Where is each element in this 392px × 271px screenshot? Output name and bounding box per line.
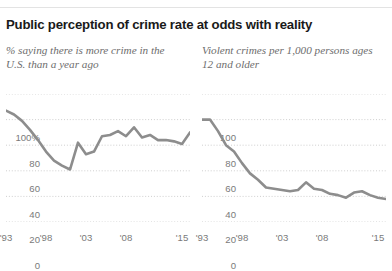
chart-subtitle-violent-crime: Violent crimes per 1,000 persons ages 12…: [202, 44, 378, 71]
y-axis-tick-label: 0: [198, 260, 236, 271]
x-axis-perception: '93'98'03'08'15: [0, 232, 196, 252]
x-axis-labels-row: '93'98'03'08'15 '93'98'03'08'15: [0, 232, 392, 248]
plot-area-perception: [6, 94, 190, 222]
y-axis-tick-label: 0: [2, 260, 40, 271]
x-axis-violent-crime: '93'98'03'08'15: [196, 232, 392, 252]
x-axis-tick-label: '98: [40, 232, 53, 243]
gridlines-perception: [6, 94, 190, 222]
page-title: Public perception of crime rate at odds …: [6, 17, 312, 32]
line-chart-violent-crime: [202, 94, 386, 222]
line-chart-perception: [6, 94, 190, 222]
x-axis-tick-label: '15: [176, 232, 189, 243]
x-axis-tick-label: '08: [316, 232, 329, 243]
x-axis-tick-label: '93: [0, 232, 12, 243]
x-axis-tick-label: '93: [196, 232, 209, 243]
plot-area-violent-crime: [202, 94, 386, 222]
x-axis-tick-label: '03: [276, 232, 289, 243]
x-axis-tick-label: '03: [80, 232, 93, 243]
data-line-violent-crime: [202, 120, 386, 199]
data-line-perception: [6, 111, 190, 170]
header-divider: [0, 7, 392, 8]
gridlines-violent-crime: [202, 94, 386, 222]
x-axis-tick-label: '08: [120, 232, 133, 243]
x-axis-tick-label: '98: [236, 232, 249, 243]
x-axis-tick-label: '15: [372, 232, 385, 243]
chart-subtitle-perception: % saying there is more crime in the U.S.…: [6, 44, 182, 71]
